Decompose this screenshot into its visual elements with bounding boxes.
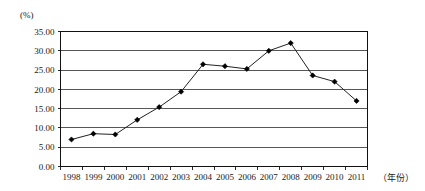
data-point-markers-group [69, 40, 359, 142]
y-tick-label: 20.00 [34, 85, 55, 95]
y-tick-label: 10.00 [34, 123, 55, 133]
x-tick-label: 2009 [304, 172, 323, 182]
data-series-line [71, 43, 356, 139]
plot-frame [61, 32, 368, 167]
x-tick-label: 1999 [84, 172, 103, 182]
y-tick-label: 15.00 [34, 104, 55, 114]
x-tick-label: 2006 [238, 172, 257, 182]
x-tick-labels-group: 1998199920002001200220032004200520062007… [62, 172, 365, 182]
x-tick-label: 2004 [194, 172, 213, 182]
x-tick-label: 2000 [106, 172, 125, 182]
data-point-marker [91, 131, 96, 136]
data-point-marker [69, 137, 74, 142]
x-tick-label: 1998 [62, 172, 81, 182]
data-point-marker [113, 132, 118, 137]
chart-figure: (%) 0.005.0010.0015.0020.0025.0030.0035.… [0, 0, 425, 191]
x-tick-label: 2007 [260, 172, 279, 182]
x-tick-label: 2010 [326, 172, 345, 182]
y-tick-label: 5.00 [39, 142, 55, 152]
line-chart: 0.005.0010.0015.0020.0025.0030.0035.00 1… [0, 0, 425, 191]
y-tick-labels-group: 0.005.0010.0015.0020.0025.0030.0035.00 [34, 27, 55, 172]
x-tick-label: 2008 [282, 172, 301, 182]
y-tick-label: 25.00 [34, 65, 55, 75]
y-tick-label: 30.00 [34, 46, 55, 56]
y-tick-label: 35.00 [34, 27, 55, 37]
y-tick-label: 0.00 [39, 162, 55, 172]
data-point-marker [222, 64, 227, 69]
data-point-marker [135, 117, 140, 122]
x-axis-caption: （年份） [378, 172, 414, 183]
x-tick-label: 2002 [150, 172, 168, 182]
x-tick-label: 2001 [128, 172, 146, 182]
x-tick-label: 2011 [348, 172, 366, 182]
x-tick-label: 2005 [216, 172, 235, 182]
x-tick-label: 2003 [172, 172, 191, 182]
